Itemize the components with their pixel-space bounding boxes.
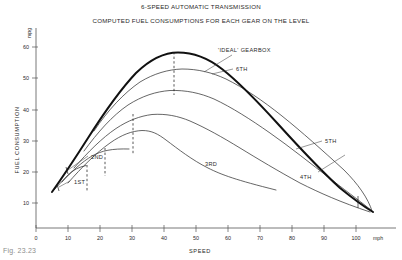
series-label-3rd: 3RD bbox=[205, 161, 217, 167]
series-label-ideal-gearbox: 'IDEAL' GEARBOX bbox=[218, 47, 271, 53]
y-tick-label-30: 30 bbox=[23, 138, 29, 144]
figure-container: 6-SPEED AUTOMATIC TRANSMISSION COMPUTED … bbox=[0, 0, 402, 260]
annotation-4th: 4TH bbox=[300, 155, 345, 180]
series-label-5th: 5TH bbox=[325, 138, 337, 144]
y-tick-label-50: 50 bbox=[23, 75, 29, 81]
y-tick-label-20: 20 bbox=[23, 169, 29, 175]
x-tick-label-40: 40 bbox=[161, 235, 167, 241]
leader-line-ideal-gearbox bbox=[204, 55, 232, 72]
series-label-4th: 4TH bbox=[300, 174, 312, 180]
x-tick-label-100: 100 bbox=[352, 235, 361, 241]
annotation-1st: 1ST bbox=[57, 179, 86, 191]
chart-svg: 60 50 40 30 20 10 mpg FUEL CONSUMPTION 0… bbox=[0, 0, 402, 260]
x-axis-ticks: 0 10 20 30 40 50 60 70 80 90 100 mph bbox=[35, 225, 384, 241]
y-axis-unit: mpg bbox=[26, 28, 32, 38]
x-tick-label-70: 70 bbox=[257, 235, 263, 241]
annotation-5th: 5TH bbox=[296, 138, 337, 149]
x-tick-label-0: 0 bbox=[35, 235, 38, 241]
figure-caption: Fig. 23.23 bbox=[3, 247, 36, 254]
leader-line-5th bbox=[296, 141, 322, 149]
y-tick-label-10: 10 bbox=[23, 200, 29, 206]
series-curve-5th bbox=[84, 90, 372, 211]
leader-line-1st bbox=[59, 181, 70, 187]
annotation-3rd: 3RD bbox=[205, 161, 217, 167]
series-curve-3rd bbox=[68, 131, 276, 191]
series-label-6th: 6TH bbox=[236, 66, 248, 72]
figure-subtitle: COMPUTED FUEL CONSUMPTIONS FOR EACH GEAR… bbox=[0, 17, 402, 24]
axes-group bbox=[36, 28, 396, 228]
x-axis-unit: mph bbox=[373, 235, 383, 241]
x-axis-title: SPEED bbox=[189, 248, 211, 254]
x-tick-label-50: 50 bbox=[193, 235, 199, 241]
figure-title: 6-SPEED AUTOMATIC TRANSMISSION bbox=[0, 3, 402, 10]
y-axis-title: FUEL CONSUMPTION bbox=[14, 106, 20, 173]
series-label-1st: 1ST bbox=[74, 179, 86, 185]
y-tick-label-60: 60 bbox=[23, 44, 29, 50]
x-tick-label-20: 20 bbox=[97, 235, 103, 241]
x-tick-label-30: 30 bbox=[129, 235, 135, 241]
series-curve-4th bbox=[74, 114, 370, 212]
annotation-6th: 6TH bbox=[212, 66, 248, 74]
leader-line-4th bbox=[318, 155, 345, 172]
y-tick-label-40: 40 bbox=[23, 107, 29, 113]
x-tick-label-90: 90 bbox=[321, 235, 327, 241]
x-tick-label-10: 10 bbox=[65, 235, 71, 241]
x-tick-label-80: 80 bbox=[289, 235, 295, 241]
x-tick-label-60: 60 bbox=[225, 235, 231, 241]
series-label-2nd: 2ND bbox=[91, 154, 103, 160]
